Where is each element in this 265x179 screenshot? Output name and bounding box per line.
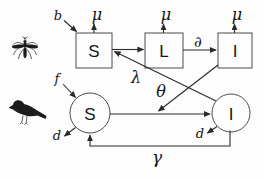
mosquito-latent-label: L bbox=[159, 42, 168, 61]
mosquito-icon bbox=[12, 37, 39, 60]
bird-susceptible-label: S bbox=[84, 105, 95, 124]
bird-i-death-arrow bbox=[208, 127, 218, 134]
f-label: f bbox=[54, 71, 62, 86]
mosquito-infectious-label: I bbox=[233, 42, 238, 61]
partial-label: ∂ bbox=[194, 33, 202, 51]
lambda-label: λ bbox=[130, 68, 141, 87]
gamma-recovery-arrow bbox=[90, 131, 230, 147]
d-label-right: d bbox=[196, 126, 204, 141]
mu-label-2: μ bbox=[161, 5, 171, 24]
d-label-left: d bbox=[53, 128, 61, 143]
mosquito-susceptible-label: S bbox=[88, 42, 99, 61]
theta-label: θ bbox=[156, 82, 166, 101]
b-label: b bbox=[54, 8, 62, 23]
gamma-label: γ bbox=[152, 147, 163, 167]
model-diagram: S L I S I μ μ μ b ∂ λ θ f d d γ bbox=[0, 0, 265, 179]
bird-infectious-label: I bbox=[229, 105, 234, 124]
mu-label-3: μ bbox=[232, 5, 242, 24]
bird-s-death-arrow bbox=[65, 128, 76, 137]
mu-label-1: μ bbox=[92, 5, 102, 24]
bird-icon bbox=[9, 100, 47, 124]
theta-infection-arrow bbox=[159, 65, 219, 111]
mosquito-birth-arrow bbox=[64, 21, 77, 32]
bird-birth-arrow bbox=[63, 84, 76, 98]
